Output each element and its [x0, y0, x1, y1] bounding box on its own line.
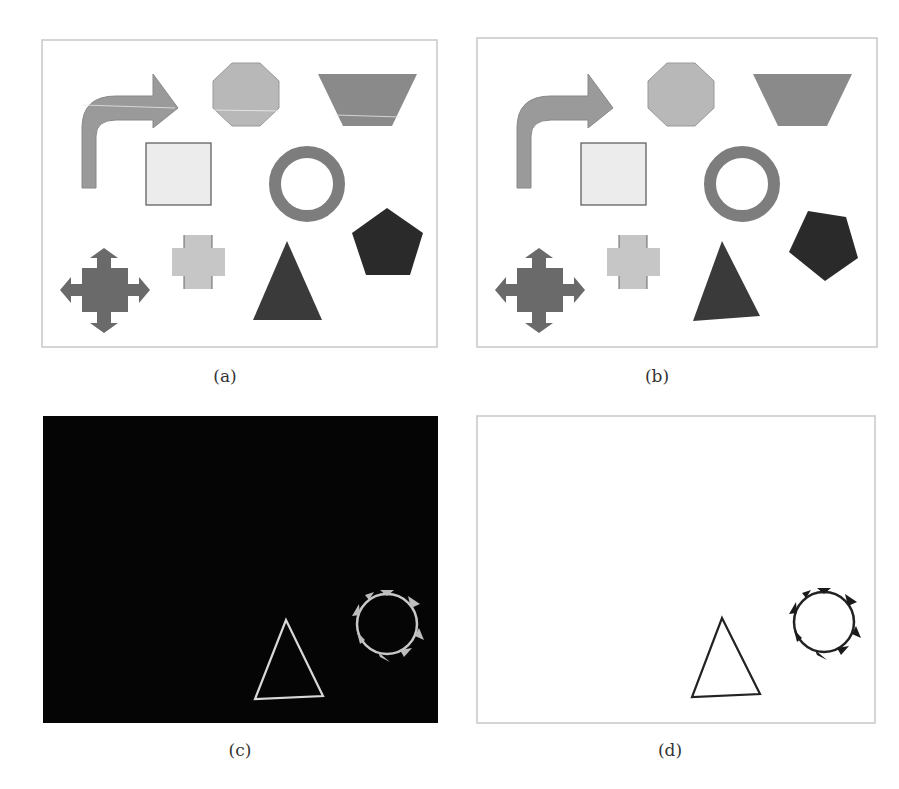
panel-c-label: (c): [210, 740, 270, 760]
figure-canvas: [0, 0, 899, 789]
octagon-shape: [213, 63, 279, 126]
figure: (a) (b) (c) (d): [0, 0, 899, 789]
panel-a: [42, 40, 437, 347]
panel-a-label: (a): [195, 366, 255, 386]
panel-d-frame: [477, 416, 875, 723]
panel-b: [477, 38, 877, 347]
octagon-shape: [648, 63, 714, 126]
panel-c-frame: [43, 416, 438, 723]
panel-c: [43, 416, 438, 723]
panel-b-label: (b): [627, 366, 687, 386]
panel-d: [477, 416, 875, 723]
square-shape: [146, 143, 211, 205]
square-shape: [581, 143, 646, 205]
panel-d-label: (d): [640, 740, 700, 760]
